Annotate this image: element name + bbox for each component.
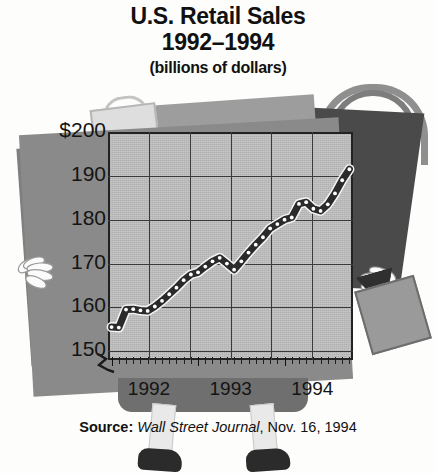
data-point [333,191,337,195]
x-tick [191,357,192,364]
chart-subtitle: (billions of dollars) [0,59,436,77]
x-tick [205,357,206,364]
data-point [304,200,308,204]
data-point [283,218,287,222]
data-point [275,222,279,226]
data-point [290,216,294,220]
source-note: Source: Wall Street Journal, Nov. 16, 19… [0,419,436,435]
x-tick [184,357,185,364]
x-tick [263,357,264,364]
source-publication: Wall Street Journal [137,419,259,435]
y-axis-labels: 150160170180190$200 [34,118,106,368]
x-tick [176,357,177,364]
x-tick [256,357,257,364]
chart-title-line2: 1992–1994 [0,30,436,56]
data-point [218,256,222,260]
x-tick-label-1994: 1994 [291,378,333,400]
x-tick [249,357,250,364]
data-point [139,309,143,313]
x-tick [321,357,322,364]
data-point [247,251,251,255]
x-tick [169,357,170,364]
data-point [189,273,193,277]
x-axis-month-ticks [108,357,353,366]
x-tick [212,357,213,364]
x-tick [140,357,141,364]
data-point [225,262,229,266]
x-tick [270,357,271,364]
data-point [131,307,135,311]
data-point [254,243,258,247]
shopper-shoe-right [245,447,290,472]
x-tick [306,357,307,364]
data-point [340,178,344,182]
data-point [175,286,179,290]
data-point [117,326,121,330]
data-point [160,299,164,303]
y-tick-label-170: 170 [71,250,106,274]
x-tick [119,357,120,364]
x-tick [220,357,221,364]
x-tick [227,357,228,364]
x-axis-labels: 199219931994 [108,378,356,404]
data-point [261,235,265,239]
x-tick [342,357,343,364]
data-point [268,227,272,231]
chart-figure: U.S. Retail Sales 1992–1994 (billions of… [0,0,436,473]
data-point [232,268,236,272]
x-tick [285,357,286,366]
source-date: , Nov. 16, 1994 [259,419,356,435]
data-point [297,202,301,206]
x-tick [148,357,149,364]
y-tick-label-160: 160 [71,293,106,317]
data-point [311,207,315,211]
x-tick-label-1993: 1993 [210,378,252,400]
x-tick [349,357,350,364]
x-tick [328,357,329,364]
x-tick-label-1992: 1992 [128,378,170,400]
series-halo [112,169,350,327]
x-tick [198,357,199,366]
y-tick-label-200: $200 [59,118,106,142]
data-point [146,309,150,313]
x-tick [299,357,300,364]
data-point [211,259,215,263]
data-point [239,259,243,263]
shopper-shoe-left [137,447,182,472]
data-point [167,292,171,296]
series-line [112,169,350,327]
x-tick [126,357,127,364]
plot-area [108,132,353,360]
source-label: Source: [79,419,133,435]
data-point [203,265,207,269]
x-tick [162,357,163,364]
x-tick [241,357,242,364]
chart-title-line1: U.S. Retail Sales [0,4,436,30]
x-tick [335,357,336,364]
data-point [326,202,330,206]
data-point [110,325,114,329]
x-tick [313,357,314,364]
x-tick [234,357,235,364]
retail-sales-line-series [108,132,353,360]
data-point [347,167,351,171]
data-point [196,270,200,274]
data-point [182,278,186,282]
data-point [124,308,128,312]
data-point [153,305,157,309]
x-tick [277,357,278,364]
x-tick [292,357,293,364]
x-tick [155,357,156,364]
y-tick-label-180: 180 [71,206,106,230]
data-point [319,209,323,213]
y-tick-label-190: 190 [71,162,106,186]
chart-title-block: U.S. Retail Sales 1992–1994 (billions of… [0,4,436,76]
y-axis-break-icon [96,352,116,374]
x-tick [133,357,134,364]
